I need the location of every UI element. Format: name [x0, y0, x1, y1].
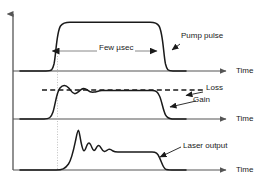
figure-canvas: Pump pulse Few µsec Loss Gain Laser outp…: [0, 0, 276, 181]
loss-label: Loss: [206, 83, 223, 92]
time-axis-label-2: Time: [236, 114, 253, 123]
few-usec-label: Few µsec: [97, 43, 135, 52]
laser-output-label: Laser output: [183, 141, 227, 150]
pump-pulse-leader-line: [172, 44, 180, 50]
pump-pulse-label: Pump pulse: [181, 31, 223, 40]
laser-output-leader-line: [160, 147, 181, 157]
gain-label: Gain: [193, 95, 210, 104]
laser-output-trace: [20, 130, 186, 170]
time-axis-label-3: Time: [236, 165, 253, 174]
time-axis-label-1: Time: [236, 66, 253, 75]
laser-relaxation-oscillation-diagram: [0, 0, 276, 181]
